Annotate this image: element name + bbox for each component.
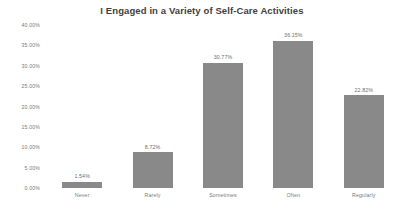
bar xyxy=(62,182,102,188)
y-axis-tick-label: 40.00% xyxy=(22,22,41,28)
y-axis-tick-label: 0.00% xyxy=(25,185,40,191)
bar xyxy=(203,63,243,188)
bar-group: 8.72% xyxy=(117,25,187,188)
y-axis-tick-label: 10.00% xyxy=(22,144,41,150)
x-axis-tick-label: Never xyxy=(47,192,117,198)
bar-chart: I Engaged in a Variety of Self-Care Acti… xyxy=(0,0,404,220)
y-axis-tick-label: 35.00% xyxy=(22,42,41,48)
y-axis: 0.00%5.00%10.00%15.00%20.00%25.00%30.00%… xyxy=(0,25,44,188)
clipped-footer-text xyxy=(0,212,404,220)
bar-group: 22.82% xyxy=(329,25,399,188)
bars-container: 1.54%8.72%30.77%36.15%22.82% xyxy=(47,25,399,188)
bar-group: 30.77% xyxy=(188,25,258,188)
bar xyxy=(133,152,173,188)
bar-group: 36.15% xyxy=(258,25,328,188)
x-axis-tick-label: Rarely xyxy=(117,192,187,198)
y-axis-tick-label: 20.00% xyxy=(22,104,41,110)
bar-value-label: 36.15% xyxy=(284,32,303,38)
y-axis-tick-label: 15.00% xyxy=(22,124,41,130)
bar xyxy=(273,41,313,188)
x-axis-category-labels: NeverRarelySometimesOftenRegularly xyxy=(47,192,399,204)
bar-value-label: 8.72% xyxy=(145,144,161,150)
x-axis-tick-label: Regularly xyxy=(329,192,399,198)
bar xyxy=(344,95,384,188)
bar-value-label: 30.77% xyxy=(214,54,233,60)
bar-group: 1.54% xyxy=(47,25,117,188)
y-axis-tick-label: 30.00% xyxy=(22,63,41,69)
bar-value-label: 1.54% xyxy=(74,173,90,179)
x-axis-tick-label: Often xyxy=(258,192,328,198)
bar-value-label: 22.82% xyxy=(354,87,373,93)
y-axis-tick-label: 5.00% xyxy=(25,165,40,171)
chart-title: I Engaged in a Variety of Self-Care Acti… xyxy=(0,5,404,16)
x-axis-tick-label: Sometimes xyxy=(188,192,258,198)
y-axis-tick-label: 25.00% xyxy=(22,83,41,89)
